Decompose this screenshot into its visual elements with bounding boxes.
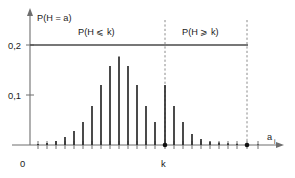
- right-region-label: P(H ⩾ k): [182, 27, 219, 37]
- stem-group: [38, 57, 258, 146]
- y-axis-label: P(H = a): [37, 13, 71, 23]
- x-axis: [12, 141, 284, 149]
- y-axis-arrowhead: [27, 8, 33, 16]
- x-axis-label: a: [267, 132, 273, 142]
- marker-dot-right-bound: [245, 143, 250, 148]
- x-axis-label-subscript: i: [274, 138, 276, 145]
- k-axis-label: k: [161, 158, 166, 169]
- y-tick-label-0-1: 0,1: [8, 90, 21, 101]
- x-axis-arrowhead: [276, 142, 284, 148]
- marker-dot-k: [163, 143, 168, 148]
- probability-distribution-figure: P(H = a) 0,2 0,1 0 k P(H ⩽ k) P(H ⩾ k) a…: [0, 0, 295, 178]
- stem-plot-svg: P(H = a) 0,2 0,1 0 k P(H ⩽ k) P(H ⩾ k) a…: [0, 0, 295, 178]
- y-axis: [26, 8, 34, 145]
- left-region-label: P(H ⩽ k): [78, 27, 115, 37]
- origin-label: 0: [20, 158, 25, 169]
- y-tick-label-0-2: 0,2: [8, 40, 21, 51]
